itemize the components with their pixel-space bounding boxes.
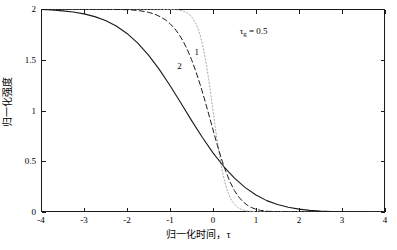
plot-frame <box>41 9 385 212</box>
y-tick-right <box>381 9 385 10</box>
y-tick-label: 1.5 <box>25 55 36 64</box>
x-tick-bottom <box>213 208 214 212</box>
y-tick-left <box>42 161 46 162</box>
tau-g-annotation: τg = 0.5 <box>240 26 268 37</box>
y-tick-left <box>42 111 46 112</box>
y-tick-left <box>42 212 46 213</box>
y-tick-label: 2 <box>32 5 37 14</box>
x-tick-bottom <box>385 208 386 212</box>
x-tick-label: 4 <box>383 216 388 225</box>
x-tick-top <box>127 10 128 14</box>
x-tick-label: -4 <box>37 216 45 225</box>
x-tick-label: 3 <box>340 216 345 225</box>
y-tick-left <box>42 60 46 61</box>
x-tick-bottom <box>256 208 257 212</box>
x-tick-label: 2 <box>297 216 302 225</box>
y-tick-right <box>381 212 385 213</box>
x-tick-top <box>385 10 386 14</box>
figure-canvas: -4-3-2-10123400.511.52 τg = 0.512 归一化时间，… <box>0 0 397 250</box>
x-tick-label: -3 <box>80 216 88 225</box>
x-tick-bottom <box>170 208 171 212</box>
x-tick-label: -2 <box>123 216 131 225</box>
x-tick-bottom <box>299 208 300 212</box>
x-tick-label: -1 <box>166 216 174 225</box>
y-tick-right <box>381 111 385 112</box>
x-tick-top <box>84 10 85 14</box>
x-tick-top <box>170 10 171 14</box>
y-tick-right <box>381 161 385 162</box>
x-tick-label: 1 <box>254 216 259 225</box>
x-tick-top <box>342 10 343 14</box>
y-tick-label: 1 <box>32 106 37 115</box>
y-tick-right <box>381 60 385 61</box>
x-tick-label: 0 <box>211 216 216 225</box>
y-tick-left <box>42 9 46 10</box>
x-tick-top <box>256 10 257 14</box>
x-tick-top <box>41 10 42 14</box>
y-axis-title: 归一化强度 <box>2 57 14 147</box>
x-tick-bottom <box>127 208 128 212</box>
x-tick-bottom <box>342 208 343 212</box>
x-tick-top <box>299 10 300 14</box>
x-tick-bottom <box>84 208 85 212</box>
y-tick-label: 0 <box>32 208 37 217</box>
x-tick-top <box>213 10 214 14</box>
curve-number-label: 1 <box>195 48 200 57</box>
y-tick-label: 0.5 <box>25 157 36 166</box>
x-axis-title: 归一化时间，τ <box>0 229 397 241</box>
curve-number-label: 2 <box>177 62 182 71</box>
